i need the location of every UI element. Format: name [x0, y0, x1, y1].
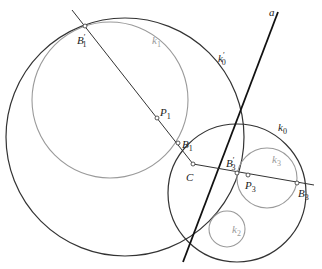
circle-label-k2: k2 [232, 223, 241, 238]
point-label-P3: P3 [244, 179, 256, 194]
point-label-B3p-sub: 3 [231, 163, 235, 172]
line-a-label: a [269, 6, 275, 18]
circle-k1 [32, 22, 188, 178]
circle-label-k0: k0 [278, 121, 287, 136]
point-C-marker [191, 162, 195, 166]
point-label-B1p: B′1 [77, 33, 86, 49]
circle-label-k3: k3 [272, 153, 281, 168]
circle-label-k0-sub: 0 [283, 127, 287, 136]
point-P1-marker [155, 116, 159, 120]
circle-label-k1: k1 [152, 34, 161, 49]
point-label-P1-sub: 1 [167, 112, 171, 121]
point-label-B1-sub: 1 [189, 144, 193, 153]
labels-layer: k′0k1k0k3k2aB′1P1B1CB′3P3B3 [77, 6, 309, 238]
point-label-B1: B1 [182, 138, 193, 153]
point-B1p-marker [83, 24, 87, 28]
circle-k3 [237, 148, 297, 208]
point-label-C-base: C [186, 171, 194, 183]
point-label-B3-sub: 3 [305, 193, 309, 202]
circle-label-k2-sub: 2 [237, 229, 241, 238]
line-b1p-c [72, 10, 193, 164]
circle-label-k3-sub: 3 [277, 159, 281, 168]
point-B1-marker [176, 141, 180, 145]
point-label-B1p-sub: 1 [82, 40, 86, 49]
circle-label-k0p-sub: 0 [222, 58, 226, 67]
point-B3p-marker [235, 171, 239, 175]
lines-layer [72, 10, 314, 262]
point-label-B3: B3 [298, 187, 309, 202]
circle-label-k1-sub: 1 [157, 40, 161, 49]
point-B3-marker [295, 181, 299, 185]
point-label-P3-sub: 3 [252, 185, 256, 194]
geometry-diagram: k′0k1k0k3k2aB′1P1B1CB′3P3B3 [0, 0, 322, 269]
point-P3-marker [246, 173, 250, 177]
point-label-C: C [186, 171, 194, 183]
point-label-P1: P1 [159, 106, 171, 121]
